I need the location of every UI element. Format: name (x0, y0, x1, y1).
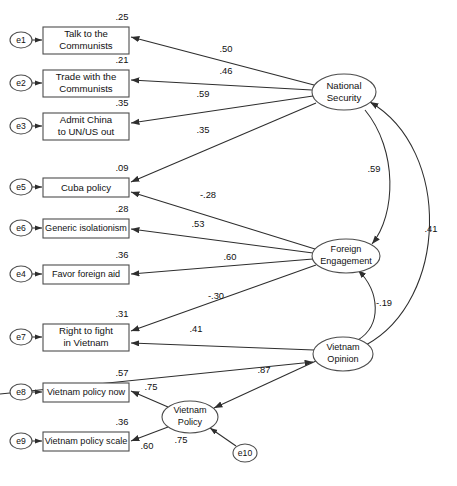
error-term-e7[interactable]: e7 (10, 329, 32, 345)
latent-variables: National Security Foreign Engagement Vie… (162, 74, 380, 433)
observed-label-admit-china-line1: Admit China (60, 114, 113, 125)
observed-label-favor-foreign-aid: Favor foreign aid (52, 269, 120, 279)
coef-vp-r2: .75 (174, 434, 187, 445)
error-arrow-e10 (210, 428, 236, 446)
latent-label-vietnam-policy-line1: Vietnam (173, 405, 206, 415)
observed-variable-right-to-fight[interactable]: Right to fight in Vietnam .31 (43, 308, 129, 351)
error-term-e5[interactable]: e5 (10, 179, 32, 195)
error-label-e3: e3 (16, 121, 26, 131)
observed-label-admit-china-line2: to UN/US out (58, 126, 115, 137)
r2-admit-china: .35 (115, 97, 128, 108)
error-term-e6[interactable]: e6 (10, 220, 32, 236)
observed-label-talk-communists-line1: Talk to the (64, 28, 108, 39)
path-vp-to-scale (131, 427, 168, 441)
r2-vietnam-policy-now: .57 (115, 367, 128, 378)
path-fe-to-aid (131, 259, 313, 274)
observed-variable-talk-communists[interactable]: Talk to the Communists .25 (43, 11, 129, 54)
coef-fe-isolationism: .53 (191, 218, 204, 229)
coef-ns-fe: .59 (367, 163, 380, 174)
observed-label-trade-communists-line2: Communists (59, 83, 113, 94)
error-label-e7: e7 (16, 332, 26, 342)
observed-label-right-to-fight-line1: Right to fight (59, 325, 113, 336)
error-label-e4: e4 (16, 269, 26, 279)
observed-variables: Talk to the Communists .25 Trade with th… (43, 11, 129, 451)
observed-variable-vietnam-policy-now[interactable]: Vietnam policy now .57 (43, 367, 129, 402)
coef-vp-scale: .60 (140, 440, 153, 451)
error-label-e8: e8 (16, 387, 26, 397)
r2-vietnam-policy-scale: .36 (115, 416, 128, 427)
path-coefficients: .50 .46 .59 .35 -.28 .53 .60 -.30 .41 .5… (140, 43, 437, 451)
coef-ns-cuba: .35 (196, 124, 209, 135)
path-fe-to-cuba (131, 192, 315, 249)
observed-label-talk-communists-line2: Communists (59, 40, 113, 51)
error-term-e9[interactable]: e9 (10, 433, 32, 449)
error-label-e2: e2 (16, 78, 26, 88)
path-ns-to-trade (131, 80, 312, 90)
coef-ns-trade: .46 (219, 65, 232, 76)
r2-generic-isolationism: .28 (115, 203, 128, 214)
path-ns-to-cuba (131, 103, 316, 182)
latent-variable-vietnam-opinion[interactable]: Vietnam Opinion (313, 337, 373, 371)
error-label-e10: e10 (238, 448, 253, 458)
r2-favor-foreign-aid: .36 (115, 249, 128, 260)
latent-label-vietnam-policy-line2: Policy (178, 417, 203, 427)
latent-label-national-security-line2: Security (327, 92, 362, 103)
observed-label-cuba-policy: Cuba policy (61, 182, 111, 193)
observed-variable-cuba-policy[interactable]: Cuba policy .09 (43, 162, 129, 197)
error-term-e1[interactable]: e1 (10, 32, 32, 48)
error-term-e3[interactable]: e3 (10, 118, 32, 134)
coef-fe-aid: .60 (223, 251, 236, 262)
error-label-e1: e1 (16, 35, 26, 45)
error-term-e8[interactable]: e8 (10, 384, 32, 400)
structural-curves (358, 102, 430, 345)
coef-vo-ns: .41 (424, 223, 437, 234)
path-ns-to-fe (365, 110, 390, 244)
coef-vo-fight: .41 (189, 323, 202, 334)
observed-variable-generic-isolationism[interactable]: Generic isolationism .28 (43, 203, 129, 238)
coef-ns-admit: .59 (196, 88, 209, 99)
measurement-paths (0, 37, 316, 441)
observed-label-vietnam-policy-scale: Vietnam policy scale (45, 436, 128, 446)
sem-path-diagram: Talk to the Communists .25 Trade with th… (0, 0, 457, 486)
coef-fe-cuba: -.28 (200, 189, 216, 200)
observed-label-vietnam-policy-now: Vietnam policy now (47, 387, 126, 397)
error-term-e4[interactable]: e4 (10, 266, 32, 282)
observed-variable-admit-china[interactable]: Admit China to UN/US out .35 (43, 97, 129, 140)
coef-fe-fight: -.30 (208, 290, 224, 301)
path-fe-to-isolationism (131, 229, 313, 253)
observed-label-generic-isolationism: Generic isolationism (45, 223, 127, 233)
latent-variable-national-security[interactable]: National Security (312, 74, 376, 110)
latent-label-foreign-engagement-line1: Foreign (331, 244, 362, 254)
latent-variable-vietnam-policy[interactable]: Vietnam Policy (162, 401, 218, 433)
r2-talk-communists: .25 (115, 11, 128, 22)
latent-label-vietnam-opinion-line2: Opinion (327, 354, 358, 364)
path-vp-to-now (131, 391, 168, 407)
latent-label-vietnam-opinion-line1: Vietnam (326, 342, 359, 352)
diagram-canvas: Talk to the Communists .25 Trade with th… (0, 0, 457, 486)
r2-right-to-fight: .31 (115, 308, 128, 319)
latent-variable-foreign-engagement[interactable]: Foreign Engagement (312, 239, 380, 273)
observed-variable-favor-foreign-aid[interactable]: Favor foreign aid .36 (43, 249, 129, 284)
error-term-e2[interactable]: e2 (10, 75, 32, 91)
path-vo-to-fe (358, 270, 375, 340)
error-label-e5: e5 (16, 182, 26, 192)
error-term-e10[interactable]: e10 (233, 444, 257, 462)
error-label-e9: e9 (16, 436, 26, 446)
r2-trade-communists: .21 (115, 54, 128, 65)
r2-cuba-policy: .09 (115, 162, 128, 173)
coef-ns-talk: .50 (219, 43, 232, 54)
observed-label-trade-communists-line1: Trade with the (56, 71, 116, 82)
coef-vp-now: .75 (144, 381, 157, 392)
path-vo-to-fight (131, 343, 314, 350)
observed-variable-vietnam-policy-scale[interactable]: Vietnam policy scale .36 (43, 416, 129, 451)
path-ns-to-admit (131, 96, 313, 123)
error-label-e6: e6 (16, 223, 26, 233)
observed-variable-trade-communists[interactable]: Trade with the Communists .21 (43, 54, 129, 97)
latent-label-foreign-engagement-line2: Engagement (320, 256, 372, 266)
coef-vo-fe: -.19 (376, 297, 392, 308)
latent-label-national-security-line1: National (326, 80, 361, 91)
observed-label-right-to-fight-line2: in Vietnam (63, 337, 108, 348)
coef-vp-vo: .87 (257, 364, 270, 375)
